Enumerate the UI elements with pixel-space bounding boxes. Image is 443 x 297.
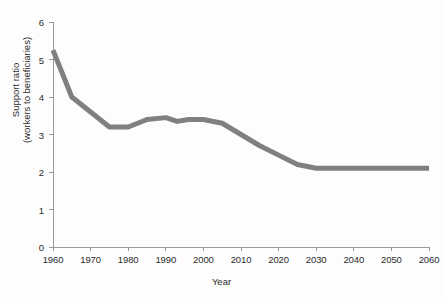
chart-tick-marks [49,22,429,251]
x-tick-label: 2050 [381,254,402,265]
y-tick-label: 1 [0,204,44,215]
x-tick-label: 2030 [306,254,327,265]
x-tick-label: 1980 [118,254,139,265]
y-axis-title: Support ratio (workers to beneficiaries) [9,20,33,160]
x-tick-label: 1990 [155,254,176,265]
support-ratio-line [53,50,429,168]
chart-container: 0123456 19601970198019902000201020202030… [0,0,443,297]
y-tick-label: 0 [0,242,44,253]
x-tick-label: 2040 [343,254,364,265]
x-tick-label: 1970 [80,254,101,265]
x-tick-label: 2000 [193,254,214,265]
y-tick-label: 2 [0,167,44,178]
x-tick-label: 2060 [419,254,440,265]
x-tick-label: 2010 [231,254,252,265]
y-axis-title-line-1: Support ratio [10,63,22,117]
y-axis-title-line-2: (workers to beneficiaries) [21,37,33,143]
x-tick-label: 2020 [268,254,289,265]
x-axis-title: Year [0,276,443,287]
chart-plot-area [0,0,443,297]
x-tick-label: 1960 [43,254,64,265]
